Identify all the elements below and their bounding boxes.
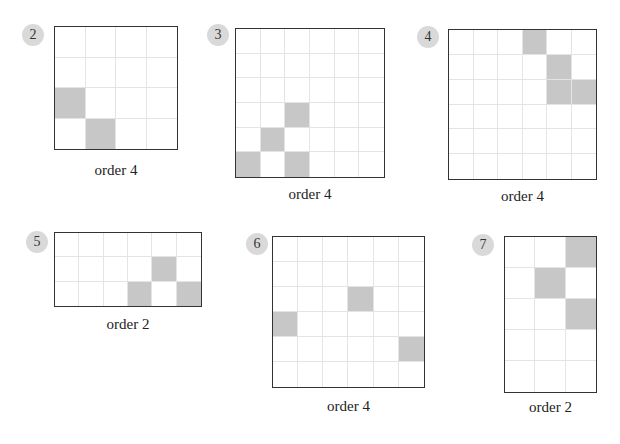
grid-cell: [399, 287, 424, 312]
problem-number-badge: 2: [22, 24, 44, 46]
grid-cell: [55, 119, 86, 150]
grid-figure: [448, 29, 597, 180]
order-label: order 4: [54, 162, 178, 179]
grid-cell: [359, 54, 384, 79]
grid-cell: [474, 154, 499, 179]
shaded-cell: [273, 312, 298, 337]
grid-cell: [310, 54, 335, 79]
grid-cell: [359, 29, 384, 54]
grid-cell: [323, 337, 348, 362]
problem-number-badge: 6: [246, 233, 268, 255]
problem-number-badge: 7: [472, 234, 494, 256]
shaded-cell: [152, 257, 176, 281]
order-label: order 4: [235, 186, 385, 203]
grid-cell: [273, 362, 298, 387]
grid-cell: [273, 237, 298, 262]
grid-cell: [348, 312, 373, 337]
grid-cell: [128, 257, 152, 281]
shaded-cell: [177, 282, 201, 306]
grid-cell: [116, 58, 147, 89]
grid-cell: [104, 257, 128, 281]
shaded-cell: [572, 80, 597, 105]
grid-cell: [348, 262, 373, 287]
grid-cell: [335, 78, 360, 103]
grid-cell: [273, 337, 298, 362]
grid-cell: [474, 30, 499, 55]
grid-cell: [236, 78, 261, 103]
grid-cell: [547, 105, 572, 130]
shaded-cell: [55, 88, 86, 119]
grid-cell: [572, 30, 597, 55]
grid-cell: [104, 282, 128, 306]
grid-cell: [359, 78, 384, 103]
grid-cell: [474, 80, 499, 105]
grid-cell: [298, 262, 323, 287]
grid-cell: [55, 233, 79, 257]
grid-cell: [236, 103, 261, 128]
grid-cell: [535, 361, 565, 392]
order-label: order 2: [54, 316, 202, 333]
grid-cell: [298, 337, 323, 362]
grid-figure: [235, 28, 385, 178]
grid-cell: [505, 330, 535, 361]
grid-cell: [359, 128, 384, 153]
grid-figure: [54, 26, 178, 150]
grid-cell: [505, 237, 535, 268]
grid-cell: [399, 262, 424, 287]
grid-cell: [310, 29, 335, 54]
grid-cell: [285, 29, 310, 54]
problem-number-badge: 3: [207, 24, 229, 46]
order-label: order 4: [448, 188, 597, 205]
grid-cell: [298, 287, 323, 312]
problem-number-badge: 4: [417, 26, 439, 48]
grid-cell: [474, 55, 499, 80]
grid-cell: [399, 237, 424, 262]
shaded-cell: [535, 268, 565, 299]
grid-cell: [79, 233, 103, 257]
grid-cell: [374, 237, 399, 262]
grid-cell: [523, 80, 548, 105]
grid-cell: [399, 312, 424, 337]
grid-cell: [285, 128, 310, 153]
shaded-cell: [285, 152, 310, 177]
grid-cell: [547, 154, 572, 179]
grid-cell: [335, 128, 360, 153]
grid-cell: [505, 268, 535, 299]
grid-cell: [566, 361, 596, 392]
grid-cell: [261, 29, 286, 54]
grid-cell: [374, 362, 399, 387]
grid-cell: [177, 257, 201, 281]
grid-cell: [147, 27, 178, 58]
grid-cell: [374, 262, 399, 287]
grid-cell: [55, 257, 79, 281]
grid-cell: [374, 287, 399, 312]
grid-cell: [116, 27, 147, 58]
grid-cell: [498, 55, 523, 80]
shaded-cell: [348, 287, 373, 312]
grid-cell: [323, 312, 348, 337]
grid-figure: [504, 236, 597, 393]
shaded-cell: [236, 152, 261, 177]
grid-cell: [298, 237, 323, 262]
grid-cell: [261, 78, 286, 103]
problem-number-badge: 5: [26, 231, 48, 253]
shaded-cell: [86, 119, 117, 150]
grid-cell: [323, 362, 348, 387]
grid-cell: [261, 54, 286, 79]
grid-cell: [55, 27, 86, 58]
grid-cell: [236, 29, 261, 54]
grid-cell: [236, 128, 261, 153]
grid-cell: [359, 103, 384, 128]
grid-cell: [572, 105, 597, 130]
grid-cell: [374, 337, 399, 362]
grid-cell: [566, 330, 596, 361]
grid-cell: [323, 237, 348, 262]
grid-cell: [572, 129, 597, 154]
grid-cell: [498, 154, 523, 179]
grid-cell: [323, 287, 348, 312]
shaded-cell: [566, 237, 596, 268]
grid-cell: [104, 233, 128, 257]
grid-cell: [310, 103, 335, 128]
grid-cell: [323, 262, 348, 287]
shaded-cell: [128, 282, 152, 306]
